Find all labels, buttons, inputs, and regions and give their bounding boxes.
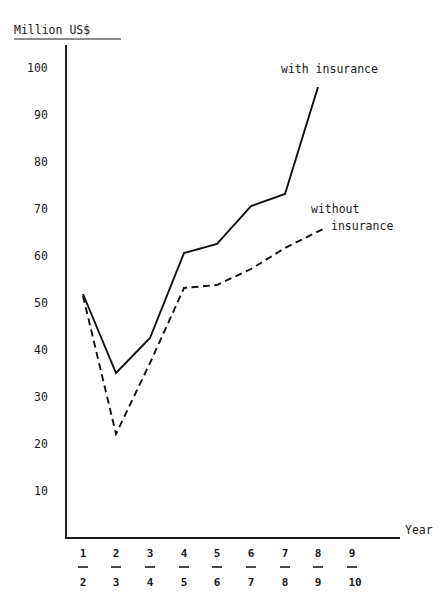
x-tick-6-numerator: 6 [248, 547, 255, 560]
y-tick-60: 60 [34, 249, 48, 263]
x-tick-7-numerator: 7 [282, 547, 289, 560]
x-tick-5-denominator: 6 [214, 576, 221, 589]
y-tick-90: 90 [34, 108, 48, 122]
axis-lines [66, 45, 400, 538]
x-tick-3-numerator: 3 [147, 547, 154, 560]
y-tick-80: 80 [34, 155, 48, 169]
annotation-with-insurance: with insurance [281, 62, 378, 76]
x-tick-2-numerator: 2 [113, 547, 120, 560]
x-tick-2: 2 3 [111, 547, 121, 589]
line-chart: Million US$ 100 90 80 70 60 50 40 30 20 … [0, 0, 448, 616]
x-tick-8: 8 9 [313, 547, 323, 589]
x-tick-9-numerator: 9 [349, 547, 356, 560]
x-tick-1: 1 2 [78, 547, 88, 589]
x-tick-5: 5 6 [212, 547, 222, 589]
y-tick-labels: 100 90 80 70 60 50 40 30 20 10 [27, 61, 48, 498]
y-tick-10: 10 [34, 484, 48, 498]
x-tick-6: 6 7 [246, 547, 256, 589]
chart-canvas: Million US$ 100 90 80 70 60 50 40 30 20 … [0, 0, 448, 616]
y-tick-40: 40 [34, 343, 48, 357]
x-tick-2-denominator: 3 [113, 576, 120, 589]
x-tick-9-denominator: 10 [348, 576, 361, 589]
x-tick-5-numerator: 5 [214, 547, 221, 560]
x-tick-7-denominator: 8 [282, 576, 289, 589]
x-tick-3: 3 4 [145, 547, 155, 589]
x-axis-title: Year [405, 523, 433, 537]
x-tick-7: 7 8 [280, 547, 290, 589]
x-tick-3-denominator: 4 [147, 576, 154, 589]
x-tick-8-denominator: 9 [315, 576, 322, 589]
x-tick-labels: 1 2 2 3 3 4 4 5 5 6 [78, 547, 362, 589]
x-tick-1-denominator: 2 [80, 576, 87, 589]
annotation-without-line1: without [311, 202, 359, 216]
with-insurance-series [83, 87, 318, 373]
annotation-without-line2: insurance [331, 219, 393, 233]
x-tick-4: 4 5 [179, 547, 189, 589]
x-tick-6-denominator: 7 [248, 576, 255, 589]
y-axis-title: Million US$ [14, 23, 90, 37]
y-tick-30: 30 [34, 390, 48, 404]
x-tick-9: 9 10 [347, 547, 362, 589]
y-tick-100: 100 [27, 61, 48, 75]
y-tick-50: 50 [34, 296, 48, 310]
without-insurance-series [83, 228, 325, 434]
x-tick-4-numerator: 4 [181, 547, 188, 560]
y-tick-70: 70 [34, 202, 48, 216]
x-tick-8-numerator: 8 [315, 547, 322, 560]
x-tick-1-numerator: 1 [80, 547, 87, 560]
x-tick-4-denominator: 5 [181, 576, 188, 589]
y-tick-20: 20 [34, 437, 48, 451]
